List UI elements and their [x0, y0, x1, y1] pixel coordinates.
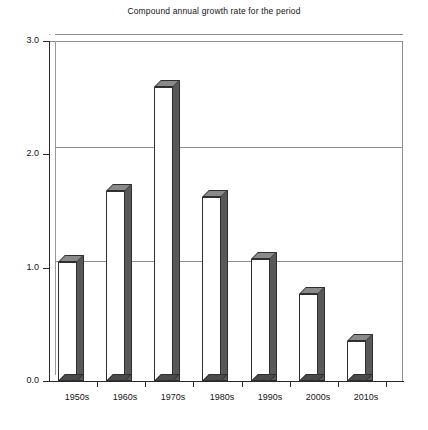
bar-side-face	[270, 252, 277, 381]
bar-side-face	[125, 184, 132, 381]
bar-front-face	[106, 191, 125, 381]
bar-1970s[interactable]	[154, 0, 173, 430]
bar-1960s[interactable]	[106, 0, 125, 430]
bar-2000s[interactable]	[299, 0, 318, 430]
bar-front-face	[154, 87, 173, 381]
bar-front-face	[299, 294, 318, 381]
bar-1980s[interactable]	[202, 0, 221, 430]
bar-front-face	[251, 259, 270, 381]
bar-side-face	[318, 287, 325, 381]
bar-front-face	[58, 262, 77, 381]
bar-side-face	[221, 190, 228, 381]
bar-1990s[interactable]	[251, 0, 270, 430]
bar-1950s[interactable]	[58, 0, 77, 430]
bar-side-face	[173, 80, 180, 381]
bar-side-face	[77, 255, 84, 381]
bar-series	[0, 0, 428, 430]
bar-2010s[interactable]	[347, 0, 366, 430]
chart-container: Compound annual growth rate for the peri…	[0, 0, 428, 430]
bar-front-face	[202, 197, 221, 381]
